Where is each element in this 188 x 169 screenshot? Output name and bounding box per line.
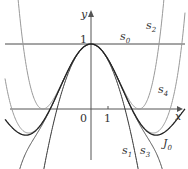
y-axis-arrow-icon (88, 10, 94, 17)
origin-label: 0 (80, 113, 87, 124)
J0-label: J0 (163, 138, 172, 152)
s4-label: s4 (158, 84, 168, 98)
curve-s4 (5, 13, 185, 134)
s2-label: s2 (146, 20, 156, 34)
s3-label: s3 (140, 145, 150, 159)
y-tick-label: 1 (80, 34, 87, 45)
s0-label: s0 (120, 31, 130, 45)
y-axis-label: y (81, 9, 87, 20)
s1-label: s1 (122, 145, 132, 159)
x-tick-label: 1 (104, 113, 111, 124)
x-axis-label: x (175, 111, 181, 122)
diagram: y x 1 0 1 s0 s2 s4 J0 s1 s3 (0, 0, 188, 169)
